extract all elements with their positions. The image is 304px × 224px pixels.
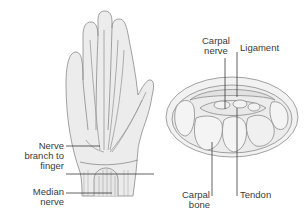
wrist-cross-section-illustration bbox=[166, 77, 298, 157]
carpal-tunnel-diagram: Nerve branch to finger Median nerve Carp… bbox=[0, 0, 304, 224]
hand-illustration bbox=[66, 11, 154, 196]
label-carpal-nerve: Carpal nerve bbox=[191, 36, 241, 56]
label-carpal-bone: Carpal bone bbox=[170, 190, 210, 210]
label-median-nerve: Median nerve bbox=[2, 187, 64, 207]
label-tendon: Tendon bbox=[240, 190, 271, 200]
label-ligament: Ligament bbox=[240, 43, 279, 53]
label-nerve-branch-to-finger: Nerve branch to finger bbox=[2, 141, 64, 171]
